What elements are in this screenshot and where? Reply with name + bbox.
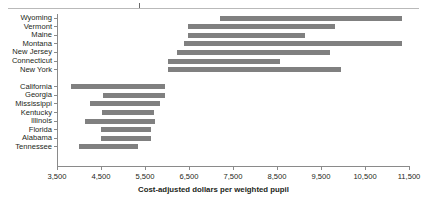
y-axis-tick: [54, 95, 57, 96]
y-axis-label: Connecticut: [0, 57, 52, 65]
y-axis-tick: [54, 103, 57, 104]
range-bar: [101, 136, 151, 141]
y-axis-label: Maine: [0, 31, 52, 39]
table-row: [0, 40, 427, 48]
range-bar: [85, 119, 155, 124]
range-bar: [177, 50, 330, 55]
x-axis-tick: [321, 166, 322, 170]
y-axis-tick: [54, 18, 57, 19]
y-axis-tick: [54, 61, 57, 62]
y-axis-tick: [54, 26, 57, 27]
y-axis-label: Mississippi: [0, 100, 52, 108]
y-axis-tick: [54, 146, 57, 147]
x-axis-tick-label: 8,500: [267, 172, 286, 181]
range-bar: [168, 67, 341, 72]
table-row: [0, 66, 427, 74]
range-bar-chart: WyomingVermontMaineMontanaNew JerseyConn…: [0, 0, 427, 202]
y-axis-tick: [54, 52, 57, 53]
x-axis-tick-label: 10,500: [353, 172, 376, 181]
table-row: [0, 143, 427, 151]
header-divider: [8, 8, 419, 9]
x-axis-tick-label: 7,500: [223, 172, 242, 181]
y-axis-tick: [54, 43, 57, 44]
table-row: [0, 135, 427, 143]
range-bar: [79, 144, 138, 149]
y-axis-tick: [54, 121, 57, 122]
range-bar: [220, 16, 403, 21]
header-tick-mark: [139, 3, 140, 8]
y-axis-tick: [54, 35, 57, 36]
range-bar: [90, 101, 160, 106]
range-bar: [168, 59, 280, 64]
table-row: [0, 100, 427, 108]
y-axis-label: New York: [0, 66, 52, 74]
y-axis-tick: [54, 138, 57, 139]
range-bar: [71, 84, 165, 89]
table-row: [0, 32, 427, 40]
table-row: [0, 83, 427, 91]
range-bar: [103, 93, 165, 98]
x-axis-tick-label: 3,500: [47, 172, 66, 181]
table-row: [0, 49, 427, 57]
table-row: [0, 126, 427, 134]
x-axis-tick-label: 6,500: [179, 172, 198, 181]
x-axis-tick: [409, 166, 410, 170]
table-row: [0, 23, 427, 31]
x-axis-title: Cost-adjusted dollars per weighted pupil: [0, 185, 427, 194]
range-bar: [102, 110, 154, 115]
table-row: [0, 15, 427, 23]
y-axis-tick: [54, 129, 57, 130]
x-axis-tick: [277, 166, 278, 170]
y-axis-tick: [54, 86, 57, 87]
y-axis-label: Tennessee: [0, 143, 52, 151]
y-axis-tick: [54, 112, 57, 113]
x-axis-tick-label: 5,500: [135, 172, 154, 181]
x-axis-tick: [233, 166, 234, 170]
range-bar: [184, 41, 402, 46]
table-row: [0, 118, 427, 126]
x-axis-tick-label: 9,500: [311, 172, 330, 181]
table-row: [0, 109, 427, 117]
x-axis-tick: [189, 166, 190, 170]
y-axis-tick: [54, 69, 57, 70]
range-bar: [188, 33, 305, 38]
table-row: [0, 92, 427, 100]
x-axis-tick: [145, 166, 146, 170]
x-axis-tick: [365, 166, 366, 170]
x-axis-tick-label: 11,500: [398, 172, 421, 181]
range-bar: [101, 127, 151, 132]
table-row: [0, 58, 427, 66]
x-axis-tick-label: 4,500: [91, 172, 110, 181]
y-axis-label: Illinois: [0, 117, 52, 125]
y-axis-label: Wyoming: [0, 14, 52, 22]
x-axis-tick: [101, 166, 102, 170]
x-axis-tick: [57, 166, 58, 170]
range-bar: [188, 24, 335, 29]
